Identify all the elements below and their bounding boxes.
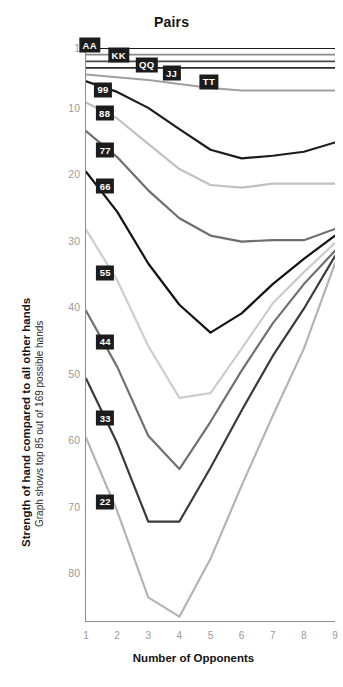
series-label-77: 77 bbox=[96, 143, 114, 158]
series-label-kk: KK bbox=[108, 48, 129, 63]
chart-figure: Pairs Strength of hand compared to all o… bbox=[0, 0, 343, 687]
series-line-66 bbox=[86, 172, 335, 333]
y-axis-subtitle: Graph shows top 85 out of 169 possible h… bbox=[34, 321, 45, 527]
y-tick-label: 30 bbox=[56, 235, 80, 247]
series-line-77 bbox=[86, 131, 335, 241]
x-tick-label: 7 bbox=[270, 630, 276, 641]
y-tick-label: 1 bbox=[56, 42, 80, 54]
series-line-33 bbox=[86, 256, 335, 521]
x-tick-label: 3 bbox=[145, 630, 151, 641]
x-tick-label: 5 bbox=[208, 630, 214, 641]
x-tick-label: 8 bbox=[301, 630, 307, 641]
series-label-jj: JJ bbox=[163, 66, 181, 81]
x-axis-title: Number of Opponents bbox=[44, 652, 343, 664]
x-axis-line bbox=[85, 621, 335, 622]
x-tick-label: 1 bbox=[83, 630, 89, 641]
y-tick-label: 10 bbox=[56, 102, 80, 114]
x-axis-ticks: 123456789 bbox=[0, 630, 343, 646]
series-line-55 bbox=[86, 230, 335, 398]
x-tick-label: 4 bbox=[177, 630, 183, 641]
series-label-88: 88 bbox=[96, 106, 114, 121]
series-label-aa: AA bbox=[79, 38, 100, 53]
y-axis-title: Strength of hand compared to all other h… bbox=[20, 298, 32, 547]
series-label-tt: TT bbox=[199, 74, 218, 89]
y-tick-label: 20 bbox=[56, 168, 80, 180]
series-label-33: 33 bbox=[96, 411, 114, 426]
series-label-44: 44 bbox=[96, 334, 114, 349]
series-label-66: 66 bbox=[96, 179, 114, 194]
y-axis-title-group: Strength of hand compared to all other h… bbox=[0, 0, 44, 687]
series-label-55: 55 bbox=[96, 265, 114, 280]
y-tick-label: 60 bbox=[56, 434, 80, 446]
y-tick-label: 40 bbox=[56, 301, 80, 313]
series-label-qq: QQ bbox=[135, 57, 157, 72]
series-line-88 bbox=[86, 103, 335, 188]
plot-area bbox=[86, 48, 335, 620]
series-label-99: 99 bbox=[94, 82, 112, 97]
series-lines bbox=[86, 48, 335, 620]
x-tick-label: 2 bbox=[114, 630, 120, 641]
x-tick-label: 9 bbox=[332, 630, 338, 641]
y-tick-label: 70 bbox=[56, 501, 80, 513]
series-label-22: 22 bbox=[96, 494, 114, 509]
y-tick-label: 50 bbox=[56, 368, 80, 380]
x-tick-label: 6 bbox=[239, 630, 245, 641]
series-line-99 bbox=[86, 81, 335, 158]
y-axis-ticks: 11020304050607080 bbox=[52, 0, 80, 687]
y-tick-label: 80 bbox=[56, 567, 80, 579]
